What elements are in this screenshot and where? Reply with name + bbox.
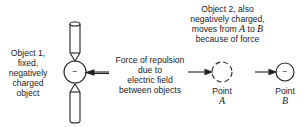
pointA-circle <box>212 62 232 82</box>
object2-label: Object 2, alsonegatively charged, moves … <box>185 4 270 44</box>
repulsion-diagram: − − Object 1,fixed,negativelychargedobje… <box>0 0 305 127</box>
object1-charge: − <box>72 66 77 76</box>
object1-label: Object 1,fixed,negativelychargedobject <box>4 48 52 98</box>
bottom-support-rod <box>70 84 80 123</box>
pointB-label: PointB <box>268 86 302 106</box>
pointB-charge: − <box>282 66 287 76</box>
pointA-label: PointA <box>205 86 239 106</box>
force-label: Force of repulsiondue toelectric fieldbe… <box>110 55 190 95</box>
top-support-rod <box>70 22 80 61</box>
